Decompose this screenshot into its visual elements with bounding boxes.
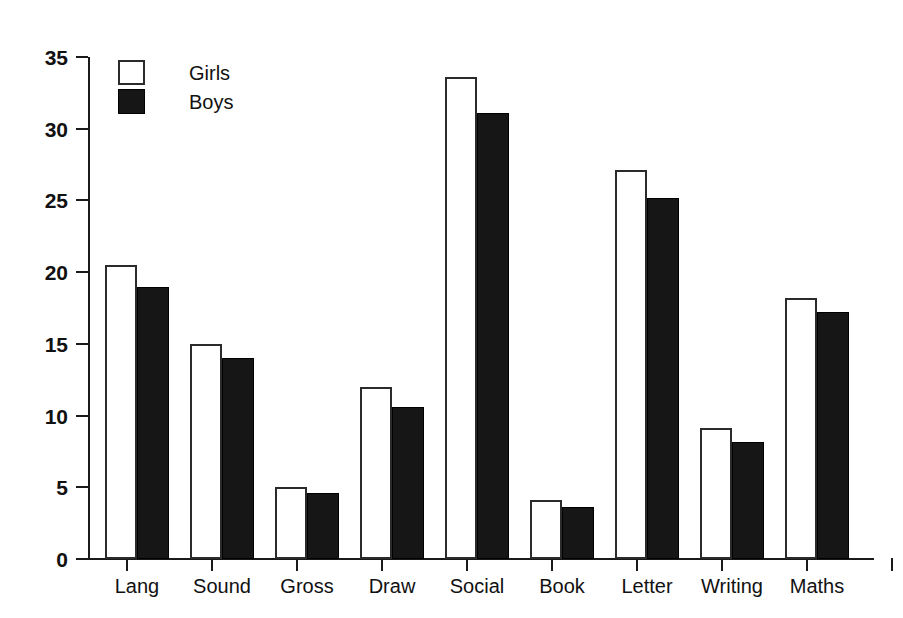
x-axis-label-lang: Lang xyxy=(115,576,160,596)
bar-maths-boys xyxy=(817,312,849,559)
bar-lang-boys xyxy=(137,287,169,560)
bar-lang-girls xyxy=(105,265,137,559)
bar-social-girls xyxy=(445,77,477,559)
x-axis-label-letter: Letter xyxy=(621,576,672,596)
x-axis-tick xyxy=(381,558,383,571)
y-axis-tick: 35 xyxy=(76,56,88,58)
bar-letter-boys xyxy=(647,198,679,559)
y-axis-tick-label: 35 xyxy=(45,47,68,68)
bar-book-boys xyxy=(562,507,594,559)
bar-sound-boys xyxy=(222,358,254,559)
x-axis-label-social: Social xyxy=(450,576,504,596)
x-axis-label-book: Book xyxy=(539,576,585,596)
bar-sound-girls xyxy=(190,344,222,559)
y-axis-tick: 20 xyxy=(76,271,88,273)
legend-label-girls: Girls xyxy=(189,63,230,83)
bars-layer xyxy=(88,57,874,559)
legend-item-boys: Boys xyxy=(118,87,233,116)
chart-legend: GirlsBoys xyxy=(118,58,233,116)
y-axis-tick-label: 5 xyxy=(56,477,68,498)
y-axis-tick: 15 xyxy=(76,343,88,345)
x-axis-label-gross: Gross xyxy=(280,576,333,596)
x-axis-tick xyxy=(551,558,553,571)
legend-swatch-girls xyxy=(118,60,145,85)
bar-writing-boys xyxy=(732,442,764,559)
y-axis-tick-label: 0 xyxy=(56,549,68,570)
y-axis-tick: 30 xyxy=(76,128,88,130)
x-axis-tick xyxy=(126,558,128,571)
bar-letter-girls xyxy=(615,170,647,559)
bar-book-girls xyxy=(530,500,562,559)
x-axis-label-draw: Draw xyxy=(369,576,416,596)
bar-maths-girls xyxy=(785,298,817,559)
y-axis-tick-label: 30 xyxy=(45,118,68,139)
y-axis-tick: 0 xyxy=(76,558,88,560)
y-axis-tick-label: 10 xyxy=(45,405,68,426)
bar-gross-boys xyxy=(307,493,339,559)
bar-writing-girls xyxy=(700,428,732,559)
x-axis-tick xyxy=(466,558,468,571)
y-axis-tick-label: 25 xyxy=(45,190,68,211)
x-axis-tick xyxy=(211,558,213,571)
y-axis-tick-label: 15 xyxy=(45,333,68,354)
bar-draw-girls xyxy=(360,387,392,559)
x-axis-label-maths: Maths xyxy=(790,576,844,596)
x-axis-tick xyxy=(296,558,298,571)
legend-item-girls: Girls xyxy=(118,58,233,87)
y-axis-tick: 10 xyxy=(76,415,88,417)
x-axis-label-writing: Writing xyxy=(701,576,763,596)
y-axis-tick-label: 20 xyxy=(45,262,68,283)
legend-label-boys: Boys xyxy=(189,92,233,112)
y-axis-tick: 5 xyxy=(76,486,88,488)
bar-social-boys xyxy=(477,113,509,559)
x-axis-tick xyxy=(891,558,893,571)
x-axis-tick xyxy=(806,558,808,571)
x-axis-tick xyxy=(721,558,723,571)
y-axis-tick: 25 xyxy=(76,199,88,201)
x-axis-tick xyxy=(636,558,638,571)
bar-chart: 05101520253035 LangSoundGrossDrawSocialB… xyxy=(0,0,903,618)
bar-gross-girls xyxy=(275,487,307,559)
bar-draw-boys xyxy=(392,407,424,559)
legend-swatch-boys xyxy=(118,89,145,114)
x-axis-label-sound: Sound xyxy=(193,576,251,596)
